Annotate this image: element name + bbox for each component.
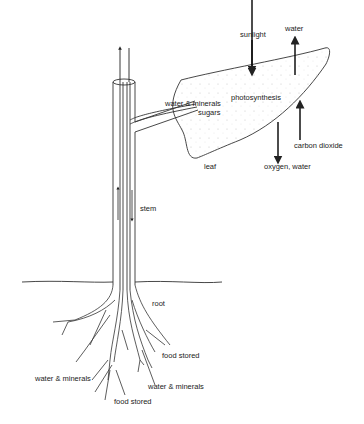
label-water-minerals-right: water & minerals — [147, 382, 204, 391]
ground-line — [22, 281, 222, 282]
label-water-minerals-left: water & minerals — [34, 374, 91, 383]
label-oxygen-water: oxygen, water — [264, 162, 311, 171]
label-food-stored-right: food stored — [162, 351, 200, 360]
label-sugars: sugars — [198, 108, 221, 117]
label-sunlight: sunlight — [240, 30, 267, 39]
label-leaf: leaf — [204, 162, 217, 171]
label-water-top: water — [284, 24, 304, 33]
label-food-stored-bottom: food stored — [114, 397, 152, 406]
label-carbon-dioxide: carbon dioxide — [294, 141, 343, 150]
plant-diagram: sunlight water photosynthesis water & mi… — [0, 0, 364, 424]
label-stem: stem — [140, 204, 156, 213]
label-root: root — [152, 299, 166, 308]
label-photosynthesis: photosynthesis — [231, 93, 281, 102]
label-water-minerals-leaf: water & minerals — [164, 99, 221, 108]
